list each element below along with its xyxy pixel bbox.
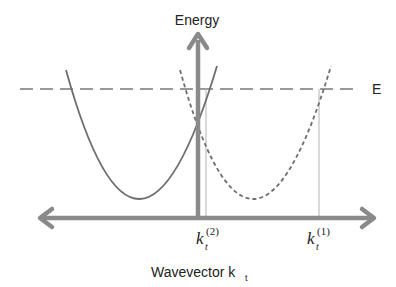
k1-subscript: t bbox=[316, 241, 319, 252]
k1-base: k bbox=[307, 229, 315, 248]
k2-superscript: (2) bbox=[206, 225, 219, 238]
dashed-band-curve bbox=[180, 66, 331, 199]
wavevector-label-subscript: t bbox=[245, 273, 248, 283]
wavevector-axis-label: Wavevector k t bbox=[151, 264, 248, 283]
k1-marker-label: k t (1) bbox=[307, 225, 330, 252]
energy-axis-label: Energy bbox=[175, 12, 219, 28]
k2-subscript: t bbox=[205, 241, 208, 252]
k2-marker-label: k t (2) bbox=[196, 225, 219, 252]
k1-superscript: (1) bbox=[317, 225, 330, 238]
solid-band-curve bbox=[66, 66, 217, 199]
wavevector-label-text: Wavevector k bbox=[151, 264, 236, 280]
k2-base: k bbox=[196, 229, 204, 248]
band-diagram: Energy E k t (2) k t (1) Wavevector k t bbox=[0, 0, 396, 287]
energy-level-label: E bbox=[372, 81, 381, 97]
